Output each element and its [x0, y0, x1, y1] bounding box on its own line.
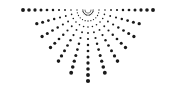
sunburst-dot: [99, 21, 101, 23]
sunburst-center-dot: [88, 12, 89, 13]
sunburst-center-dot: [90, 14, 91, 15]
sunburst-dot: [115, 16, 117, 18]
sunburst-center-dot: [85, 10, 86, 11]
sunburst-dot: [121, 18, 123, 20]
sunburst-dot: [122, 9, 124, 11]
sunburst-dot: [127, 32, 130, 35]
sunburst-dot: [117, 26, 119, 28]
sunburst-dot: [116, 9, 118, 11]
sunburst-dot: [76, 48, 79, 51]
sunburst-dot: [69, 71, 73, 75]
sunburst-dot: [87, 26, 89, 28]
sunburst-dot: [71, 65, 75, 69]
sunburst-dot: [66, 44, 69, 47]
sunburst-dot: [58, 9, 60, 11]
sunburst-dot: [41, 21, 44, 24]
sunburst-dot: [98, 12, 99, 13]
sunburst-dot: [46, 9, 49, 12]
sunburst-dot: [83, 26, 85, 28]
sunburst-dot: [76, 29, 78, 31]
sunburst-dot: [87, 38, 89, 40]
sunburst-dot: [112, 34, 114, 36]
sunburst-dot: [82, 19, 83, 20]
sunburst-dot: [95, 17, 96, 18]
sunburst-dot: [90, 20, 91, 21]
sunburst-dot: [103, 71, 107, 75]
sunburst-dot: [99, 54, 102, 57]
sunburst-dot: [40, 35, 43, 38]
sunburst-dot: [116, 38, 119, 41]
sunburst-dot: [102, 18, 104, 20]
sunburst-center-dot: [85, 10, 86, 11]
sunburst-dot: [85, 20, 86, 21]
sunburst-dot: [110, 49, 113, 52]
sunburst-dot: [94, 37, 96, 39]
sunburst-dot: [101, 34, 103, 36]
sunburst-dot: [87, 20, 88, 21]
sunburst-dot: [113, 54, 116, 57]
sunburst-dot: [66, 29, 68, 31]
sunburst-dots-icon: [21, 8, 155, 83]
sunburst-dot: [75, 21, 77, 23]
sunburst-dot: [104, 14, 106, 16]
sunburst-dot: [74, 54, 77, 57]
sunburst-center-dot: [85, 14, 86, 15]
sunburst-center-dot: [89, 15, 90, 16]
sunburst-dot: [87, 32, 89, 34]
sunburst-dot: [78, 15, 79, 16]
sunburst-center-dot: [82, 11, 83, 12]
sunburst-dot: [126, 19, 129, 22]
sunburst-dot: [47, 19, 50, 22]
sunburst-dot: [49, 46, 52, 49]
sunburst-dot: [72, 34, 74, 36]
sunburst-dot: [112, 23, 114, 25]
sunburst-dot: [93, 31, 95, 33]
sunburst-dot: [65, 15, 67, 17]
sunburst-center-dot: [92, 12, 93, 13]
sunburst-dot: [58, 38, 61, 41]
sunburst-dot: [92, 26, 94, 28]
sunburst-dot: [98, 9, 99, 10]
sunburst-center-dot: [83, 12, 84, 13]
sunburst-dot: [46, 32, 49, 35]
sunburst-dot: [86, 61, 89, 64]
sunburst-center-dot: [91, 13, 92, 14]
sunburst-center-dot: [82, 10, 83, 11]
sunburst-dot: [52, 9, 54, 11]
sunburst-dot: [103, 25, 105, 27]
sunburst-dot: [86, 73, 90, 77]
sunburst-center-dot: [91, 10, 92, 11]
sunburst-dot: [128, 9, 131, 12]
sunburst-dot: [134, 9, 137, 12]
sunburst-center-dot: [88, 15, 89, 16]
sunburst-dot: [122, 29, 125, 32]
sunburst-dot: [101, 65, 105, 69]
sunburst-dot: [97, 15, 98, 16]
sunburst-dot: [21, 8, 25, 12]
sunburst-dot: [71, 14, 73, 16]
sunburst-dot: [86, 79, 90, 83]
sunburst-dot: [59, 16, 61, 18]
sunburst-dot: [79, 37, 81, 39]
sunburst-dot: [110, 9, 112, 11]
sunburst-dot: [77, 12, 78, 13]
sunburst-dot: [35, 22, 38, 25]
sunburst-dot: [72, 18, 74, 20]
sunburst-dot: [80, 17, 81, 18]
sunburst-dot: [81, 31, 83, 33]
sunburst-dot: [107, 29, 109, 31]
sunburst-dot: [87, 44, 89, 46]
sunburst-dot: [151, 8, 155, 12]
sunburst-dot: [104, 39, 106, 41]
sunburst-dot: [145, 8, 149, 12]
sunburst-dot: [87, 50, 90, 53]
sunburst-dot: [132, 21, 135, 24]
sunburst-center-dot: [84, 13, 85, 14]
sunburst-dot: [56, 26, 58, 28]
sunburst-dot: [33, 8, 36, 11]
sunburst-dot: [62, 23, 64, 25]
sunburst-dot: [86, 67, 90, 71]
sunburst-dot: [107, 21, 109, 23]
sunburst-dot: [76, 9, 77, 10]
sunburst-dot: [120, 42, 123, 45]
